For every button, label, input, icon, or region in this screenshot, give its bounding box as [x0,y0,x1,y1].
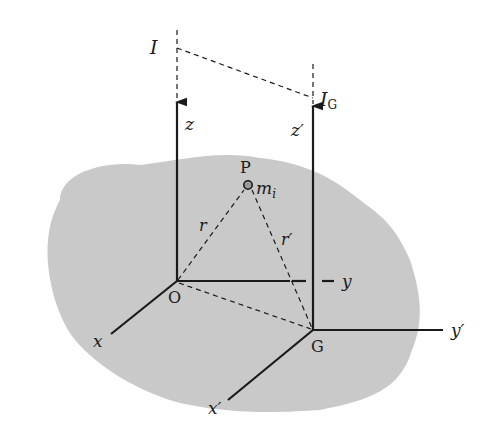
label-z-prime: z′ [290,120,304,140]
label-r: r [199,216,208,235]
label-x-prime: x′ [208,398,222,418]
label-G: G [311,337,324,356]
label-I: I [149,36,158,58]
label-z: z [184,114,195,134]
point-mass-icon [244,181,252,189]
label-r-prime: r′ [281,230,293,249]
label-y: y [341,271,352,291]
label-O: O [168,288,181,307]
rigid-body-shape [47,155,419,412]
parallel-axis-diagram: I IG z z′ P mi r r′ O y G y′ x x′ [0,0,502,437]
label-IG: IG [319,88,337,112]
label-P: P [240,158,251,177]
i-to-ig-dashed-line [177,48,313,98]
label-x: x [93,331,103,351]
label-y-prime: y′ [450,320,465,340]
